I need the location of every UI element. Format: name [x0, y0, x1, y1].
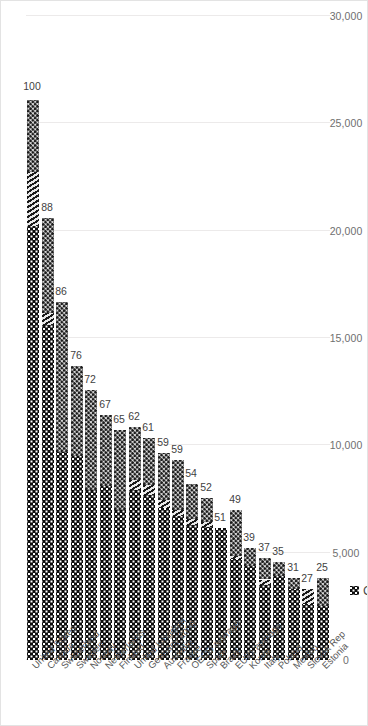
bar-segment-rnd [244, 548, 256, 565]
legend-swatch-core-icon [350, 586, 359, 595]
bar-row [244, 0, 256, 726]
bar-segment-rnd [201, 498, 213, 522]
bar-row [186, 0, 198, 726]
axis-tick-label: 5,000 [333, 547, 360, 559]
bar-segment-core [114, 510, 126, 660]
bar-segment-anc [201, 522, 213, 527]
bar-segment-rnd [158, 453, 170, 500]
axis-tick-label: 10,000 [330, 439, 363, 451]
bar-segment-rnd [273, 562, 285, 576]
bar-row [100, 0, 112, 726]
bar-segment-rnd [85, 390, 97, 491]
bar-segment-core [273, 576, 285, 660]
data-label: 39 [244, 532, 256, 544]
bar-segment-rnd [143, 438, 155, 485]
chart-rotated-container: 05,00010,00015,00020,00025,00030,000 100… [0, 0, 368, 726]
bar-segment-rnd [186, 484, 198, 519]
data-label: 76 [70, 349, 82, 361]
data-label: 49 [229, 493, 241, 505]
bar-segment-rnd [230, 510, 242, 556]
bar-row [273, 0, 285, 726]
bar-segment-anc [158, 500, 170, 508]
bar-row [27, 0, 39, 726]
bar-segment-core [42, 325, 54, 660]
bar-row [56, 0, 68, 726]
bar-row [42, 0, 54, 726]
plot-area: 05,00010,00015,00020,00025,00030,000 100… [0, 0, 368, 726]
bar-row [288, 0, 300, 726]
bar-row [215, 0, 227, 726]
data-label: 52 [200, 481, 212, 493]
axis-tick-label: 30,000 [330, 10, 363, 22]
data-label: 25 [316, 562, 328, 574]
data-label: 72 [84, 373, 96, 385]
bar-segment-rnd [27, 100, 39, 172]
bar-segment-rnd [259, 558, 271, 579]
bar-segment-anc [143, 485, 155, 495]
data-label: 59 [171, 444, 183, 456]
bar-segment-anc [302, 589, 314, 604]
data-label: 67 [99, 398, 111, 410]
bar-segment-rnd [71, 366, 83, 456]
data-label: 31 [287, 562, 299, 574]
axis-tick-label: 25,000 [330, 117, 363, 129]
data-label: 100 [23, 80, 41, 92]
bar-segment-rnd [42, 218, 54, 314]
bar-segment-core [27, 226, 39, 660]
bar-row [201, 0, 213, 726]
bar-segment-rnd [288, 578, 300, 589]
chart-canvas: 05,00010,00015,00020,00025,00030,000 100… [0, 0, 368, 726]
bar-segment-anc [186, 519, 198, 524]
bar-segment-core [230, 559, 242, 660]
data-label: 59 [157, 436, 169, 448]
bar-segment-anc [42, 313, 54, 325]
bar-segment-rnd [129, 427, 141, 480]
bar-segment-rnd [56, 302, 68, 452]
data-label: 61 [142, 421, 154, 433]
data-label: 27 [301, 572, 313, 584]
bar-row [71, 0, 83, 726]
bar-row [259, 0, 271, 726]
legend-label: Core services [363, 584, 368, 598]
bar-row [230, 0, 242, 726]
bar-row [302, 0, 314, 726]
data-label: 54 [186, 467, 198, 479]
axis-tick-label: 15,000 [330, 332, 363, 344]
bar-row [114, 0, 126, 726]
bar-row [317, 0, 329, 726]
data-label: 62 [128, 410, 140, 422]
bar-row [158, 0, 170, 726]
data-label: 51 [215, 511, 227, 523]
bar-segment-anc [230, 556, 242, 559]
bar-segment-rnd [172, 460, 184, 509]
bar-row [143, 0, 155, 726]
bar-segment-rnd [317, 578, 329, 606]
data-label: 35 [272, 545, 284, 557]
axis-tick-label: 20,000 [330, 225, 363, 237]
bar-segment-anc [259, 580, 271, 585]
bar-row [85, 0, 97, 726]
bar-segment-anc [27, 172, 39, 227]
bar-segment-rnd [100, 415, 112, 486]
data-label: 65 [113, 413, 125, 425]
bar-segment-anc [172, 510, 184, 516]
axis-tick-label: 0 [343, 654, 349, 666]
data-label: 37 [258, 541, 270, 553]
bar-row [129, 0, 141, 726]
data-label: 88 [41, 201, 53, 213]
bar-segment-rnd [114, 430, 126, 509]
bar-segment-core [100, 486, 112, 660]
data-label: 86 [55, 285, 67, 297]
bar-segment-anc [129, 480, 141, 491]
